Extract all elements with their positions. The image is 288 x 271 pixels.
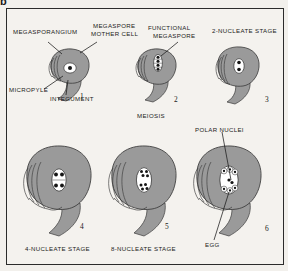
- label-functional-megaspore-line2: MEGASPORE: [153, 32, 195, 39]
- figure-panel-border: [6, 8, 284, 265]
- label-functional-megaspore-line1: FUNCTIONAL: [148, 24, 190, 31]
- figure-root: b: [0, 0, 288, 271]
- label-polar-nuclei: POLAR NUCLEI: [195, 126, 244, 133]
- label-megaspore-mother-cell-line2: MOTHER CELL: [91, 30, 138, 37]
- stage-number-1: 1: [80, 92, 84, 101]
- panel-letter-label: b: [0, 0, 7, 6]
- label-meiosis: MEIOSIS: [137, 112, 165, 119]
- stage-number-4: 4: [80, 222, 84, 231]
- label-2-nucleate-stage: 2-NUCLEATE STAGE: [212, 27, 277, 34]
- label-megasporangium: MEGASPORANGIUM: [13, 28, 78, 35]
- stage-number-2: 2: [174, 95, 178, 104]
- stage-number-6: 6: [265, 224, 269, 233]
- stage-number-5: 5: [165, 222, 169, 231]
- label-4-nucleate-stage: 4-NUCLEATE STAGE: [25, 245, 90, 252]
- label-micropyle: MICROPYLE: [9, 86, 48, 93]
- label-integument: INTEGUMENT: [50, 95, 94, 102]
- label-megaspore-mother-cell-line1: MEGASPORE: [93, 22, 135, 29]
- label-8-nucleate-stage: 8-NUCLEATE STAGE: [111, 245, 176, 252]
- stage-number-3: 3: [265, 95, 269, 104]
- label-egg: EGG: [205, 241, 220, 248]
